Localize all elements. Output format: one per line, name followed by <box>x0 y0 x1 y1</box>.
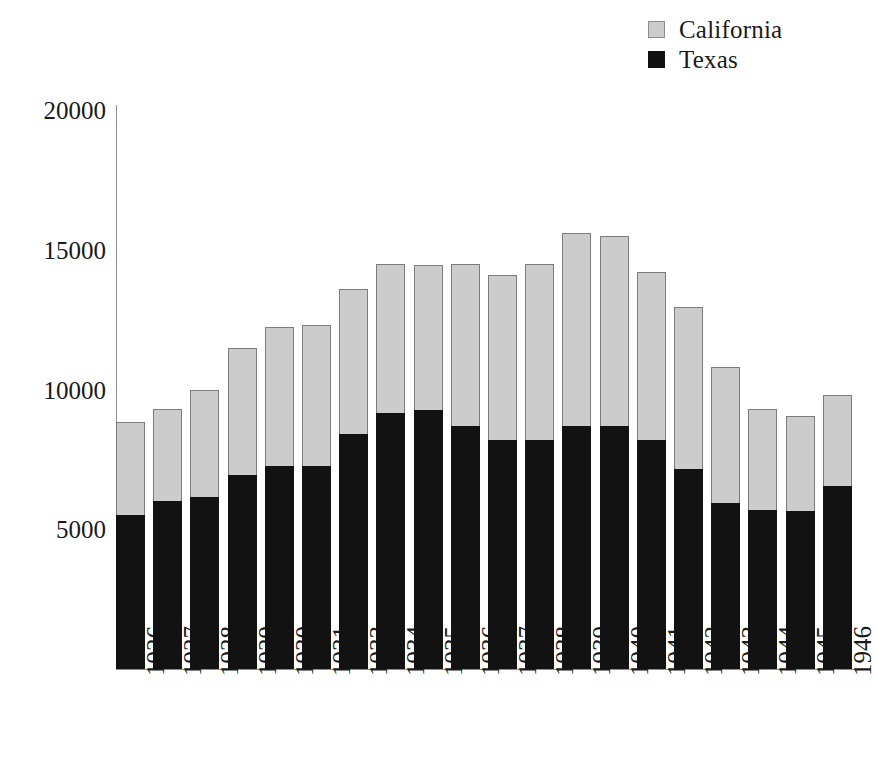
plot-area: 5000100001500020000 19261927192819291930… <box>0 0 876 760</box>
bar-group[interactable] <box>711 367 740 669</box>
x-tick-label: 1937 <box>488 676 517 760</box>
x-tick-label: 1936 <box>451 676 480 760</box>
y-tick-label: 15000 <box>24 237 106 262</box>
bar-segment-california[interactable] <box>302 325 331 466</box>
bar-group[interactable] <box>376 264 405 669</box>
x-tick-label: 1931 <box>302 676 331 760</box>
bar-segment-california[interactable] <box>376 264 405 414</box>
x-tick-label: 1927 <box>153 676 182 760</box>
bar-segment-california[interactable] <box>153 409 182 501</box>
x-tick-label: 1928 <box>190 676 219 760</box>
bar-group[interactable] <box>414 265 443 669</box>
x-tick-label: 1941 <box>637 676 666 760</box>
bar-segment-california[interactable] <box>711 367 740 503</box>
x-tick-label: 1940 <box>600 676 629 760</box>
bar-group[interactable] <box>488 275 517 669</box>
bar-segment-california[interactable] <box>228 348 257 475</box>
bar-group[interactable] <box>228 348 257 669</box>
bar-group[interactable] <box>637 272 666 669</box>
bar-series-container: 1926192719281929193019311933193419351936… <box>116 0 861 760</box>
x-tick-label: 1946 <box>823 676 852 760</box>
x-tick-label: 1930 <box>265 676 294 760</box>
x-tick-text: 1946 <box>848 626 876 676</box>
bar-segment-california[interactable] <box>823 395 852 486</box>
x-tick-label: 1945 <box>786 676 815 760</box>
bar-segment-california[interactable] <box>748 409 777 510</box>
y-tick-label: 5000 <box>24 517 106 542</box>
bar-segment-california[interactable] <box>600 236 629 426</box>
x-tick-label: 1934 <box>376 676 405 760</box>
bar-segment-california[interactable] <box>674 307 703 469</box>
x-tick-label: 1938 <box>525 676 554 760</box>
x-tick-label: 1926 <box>116 676 145 760</box>
y-tick-label: 10000 <box>24 377 106 402</box>
bar-segment-california[interactable] <box>190 390 219 498</box>
bar-segment-california[interactable] <box>265 327 294 467</box>
bar-segment-california[interactable] <box>116 422 145 516</box>
x-tick-label: 1942 <box>674 676 703 760</box>
bar-segment-california[interactable] <box>786 416 815 511</box>
bar-segment-california[interactable] <box>451 264 480 426</box>
bar-segment-california[interactable] <box>339 289 368 434</box>
bar-group[interactable] <box>674 307 703 669</box>
stacked-bar-chart: California Texas 5000100001500020000 192… <box>0 0 876 760</box>
x-tick-label: 1939 <box>562 676 591 760</box>
x-tick-label: 1929 <box>228 676 257 760</box>
bar-segment-california[interactable] <box>414 265 443 410</box>
y-tick-label: 20000 <box>24 98 106 123</box>
bar-group[interactable] <box>562 233 591 669</box>
bar-group[interactable] <box>339 289 368 669</box>
bar-segment-california[interactable] <box>488 275 517 440</box>
x-tick-label: 1935 <box>414 676 443 760</box>
x-tick-label: 1943 <box>711 676 740 760</box>
bar-group[interactable] <box>451 264 480 669</box>
bar-group[interactable] <box>600 236 629 669</box>
bar-group[interactable] <box>265 327 294 669</box>
x-tick-label: 1944 <box>748 676 777 760</box>
bar-segment-california[interactable] <box>562 233 591 426</box>
x-tick-label: 1933 <box>339 676 368 760</box>
bar-segment-california[interactable] <box>525 264 554 440</box>
bar-group[interactable] <box>302 325 331 669</box>
bar-group[interactable] <box>525 264 554 669</box>
bar-segment-california[interactable] <box>637 272 666 440</box>
